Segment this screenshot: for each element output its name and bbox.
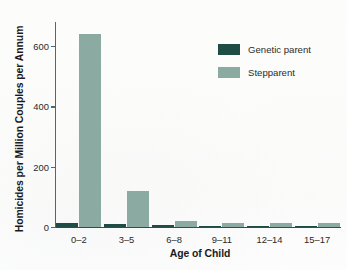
bar-stepparent-9-11 xyxy=(222,223,244,227)
x-axis-tick-label: 0–2 xyxy=(71,234,87,245)
y-axis-tick-label: 200 xyxy=(33,161,49,172)
y-axis-tick-label: 400 xyxy=(33,101,49,112)
bar-chart-figure: Homicides per Million Couples per Annum … xyxy=(0,0,347,270)
bar-genetic-parent-0-2 xyxy=(56,223,78,227)
bar-genetic-parent-3-5 xyxy=(104,224,126,227)
bar-stepparent-15-17 xyxy=(318,223,340,227)
legend-item-label: Stepparent xyxy=(248,65,295,80)
bar-genetic-parent-6-8 xyxy=(152,225,174,227)
x-axis-title: Age of Child xyxy=(60,248,340,259)
y-axis-tick-mark xyxy=(51,227,56,228)
x-axis-tick-label: 6–8 xyxy=(166,234,182,245)
x-axis-tick-label: 15–17 xyxy=(304,234,330,245)
y-axis-tick-mark xyxy=(51,167,56,168)
legend-swatch-icon xyxy=(218,44,240,55)
x-axis-line xyxy=(55,227,341,228)
legend-swatch-icon xyxy=(218,67,240,78)
x-axis-tick-label: 3–5 xyxy=(119,234,135,245)
y-axis-line xyxy=(55,22,56,228)
x-axis-tick-label: 12–14 xyxy=(256,234,282,245)
bar-genetic-parent-12-14 xyxy=(247,226,269,228)
bar-stepparent-0-2 xyxy=(79,34,101,227)
y-axis-title: Homicides per Million Couples per Annum xyxy=(12,14,28,244)
x-axis-tick-label: 9–11 xyxy=(212,234,232,245)
y-axis-tick-mark xyxy=(51,46,56,47)
legend-item-label: Genetic parent xyxy=(248,42,311,57)
bar-stepparent-3-5 xyxy=(127,191,149,227)
y-axis-tick-mark xyxy=(51,106,56,107)
y-axis-tick-label: 0 xyxy=(44,222,49,233)
bar-stepparent-12-14 xyxy=(270,223,292,227)
y-axis-tick-label: 600 xyxy=(33,41,49,52)
bar-genetic-parent-15-17 xyxy=(295,226,317,228)
bar-genetic-parent-9-11 xyxy=(199,226,221,228)
bar-stepparent-6-8 xyxy=(175,221,197,227)
